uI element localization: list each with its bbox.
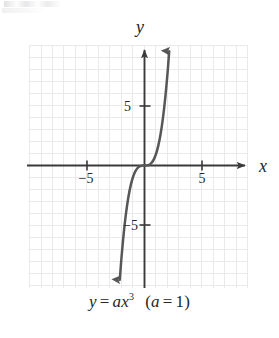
caption-exponent: 3 [129, 291, 134, 302]
tick-label-y-pos5: 5 [124, 99, 131, 114]
caption-x-variable: x [121, 292, 129, 311]
axis-label-y: y [134, 17, 144, 37]
tick-label-x-pos5: 5 [199, 171, 206, 186]
caption-y-variable: y [89, 292, 97, 311]
cubic-function-figure: y x 5 −5 −5 5 y=ax3(a=1) [0, 0, 279, 338]
tick-label-x-neg5: −5 [79, 171, 94, 186]
caption-a-coefficient: a [112, 292, 121, 311]
caption-condition-a: a [151, 292, 160, 311]
tick-label-y-neg5: −5 [123, 218, 138, 233]
caption-condition-equals: = [160, 292, 176, 311]
axis-label-x: x [258, 156, 267, 176]
caption-close-paren: ) [184, 292, 190, 311]
caption-condition-value: 1 [176, 292, 185, 311]
coordinate-plot: y x 5 −5 −5 5 [0, 0, 279, 338]
caption-equals-sign: = [97, 292, 113, 311]
figure-caption: y=ax3(a=1) [0, 292, 279, 312]
plot-labels: y x 5 −5 −5 5 [79, 17, 267, 233]
